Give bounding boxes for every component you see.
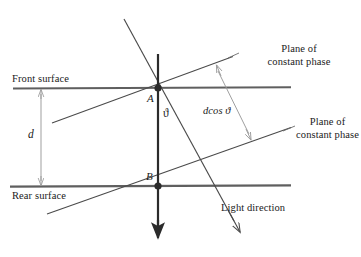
plane-of-constant-phase-lower-label: Plane of constant phase [294,116,361,141]
path-difference-arrow-top [217,65,222,76]
plane-upper-leader [228,53,239,58]
front-surface-line [13,87,291,88]
front-surface-label: Front surface [12,73,69,85]
plane-of-constant-phase-upper-label: Plane of constant phase [243,43,355,68]
optics-diagram: Front surface Rear surface d A B ϑ dcos … [0,0,361,257]
path-difference-label: dcos ϑ [203,105,231,117]
node-b-marker [154,182,161,189]
plane-upper-line1: Plane of [281,43,317,54]
node-a-marker [154,84,161,91]
rear-surface-label: Rear surface [12,190,66,202]
thickness-label: d [28,128,34,140]
light-direction-label: Light direction [221,202,285,214]
path-difference-dimension-line [218,71,249,134]
node-a-label: A [147,92,154,104]
plane-upper-line2: constant phase [268,56,331,67]
path-difference-arrow-bottom [246,129,251,140]
rear-surface-line [10,185,291,186]
angle-theta-label: ϑ [163,107,169,119]
node-b-label: B [146,170,153,182]
plane-lower-line1: Plane of [310,116,346,127]
light-ray-line [124,19,234,221]
plane-lower-line2: constant phase [296,129,359,140]
